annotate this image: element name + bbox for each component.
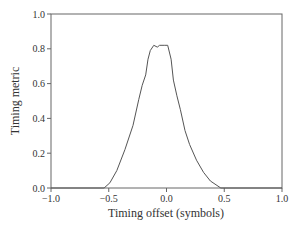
y-tick-label: 0.6 [33, 78, 46, 89]
x-tick-label: 0.5 [218, 193, 231, 204]
y-axis-label: Timing metric [8, 67, 22, 136]
x-tick-label: −0.5 [100, 193, 118, 204]
y-tick-label: 1.0 [33, 9, 46, 20]
timing-metric-chart: −1.0−0.50.00.51.00.00.20.40.60.81.0 Timi… [0, 0, 305, 230]
y-tick-label: 0.4 [33, 113, 46, 124]
x-tick-label: −1.0 [42, 193, 60, 204]
y-tick-label: 0.8 [33, 43, 46, 54]
plot-axes [51, 14, 282, 188]
x-tick-label: 0.0 [160, 193, 173, 204]
timing-metric-curve [51, 45, 282, 188]
x-axis-label: Timing offset (symbols) [108, 206, 224, 220]
axis-ticks: −1.0−0.50.00.51.00.00.20.40.60.81.0 [33, 9, 289, 205]
y-tick-label: 0.0 [33, 183, 46, 194]
y-tick-label: 0.2 [33, 148, 46, 159]
x-tick-label: 1.0 [276, 193, 289, 204]
plot-frame [51, 14, 282, 188]
